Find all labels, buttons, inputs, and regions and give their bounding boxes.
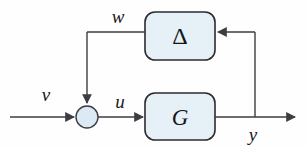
plant-block-label: G	[172, 105, 189, 130]
block-diagram-canvas: Δ G v w u y	[0, 0, 307, 147]
delta-block-label: Δ	[172, 23, 187, 49]
signal-label-y: y	[247, 124, 258, 145]
block-diagram-svg: Δ G v w u y	[0, 0, 307, 147]
signal-label-w: w	[112, 6, 125, 27]
summing-junction	[76, 106, 98, 128]
signal-label-u: u	[115, 91, 125, 112]
signal-label-v: v	[42, 84, 51, 105]
